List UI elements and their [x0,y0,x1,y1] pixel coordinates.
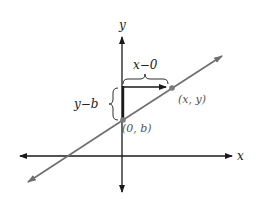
y-axis-label: y [118,18,126,32]
run-brace [123,74,168,84]
run-label: x−0 [133,58,158,72]
point-0-b-label: (0, b) [122,122,152,135]
point-x-y [169,85,175,91]
rise-brace [109,88,118,120]
coordinate-diagram: y x x−0 y−b (0, b) (x, y) [0,0,258,202]
x-axis-label: x [237,149,244,163]
point-x-y-label: (x, y) [178,93,206,106]
rise-label: y−b [73,97,99,111]
